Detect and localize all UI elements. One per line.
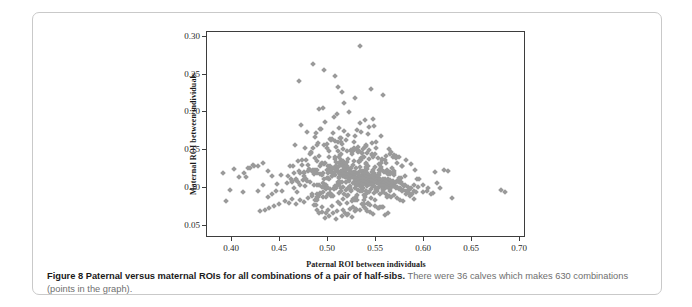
data-point bbox=[380, 93, 386, 99]
data-points-layer bbox=[207, 32, 524, 236]
data-point bbox=[408, 161, 414, 167]
data-point bbox=[220, 170, 226, 176]
data-point bbox=[307, 152, 313, 158]
figure-card: Maternal ROI between individuals Paterna… bbox=[32, 12, 662, 295]
data-point bbox=[223, 198, 229, 204]
data-point bbox=[332, 73, 338, 79]
data-point bbox=[274, 181, 280, 187]
data-point bbox=[304, 129, 310, 135]
x-tick bbox=[327, 236, 328, 241]
data-point bbox=[445, 168, 451, 174]
x-axis-title: Paternal ROI between individuals bbox=[306, 260, 425, 269]
x-tick-label: 0.40 bbox=[223, 243, 239, 253]
x-tick-label: 0.70 bbox=[511, 243, 527, 253]
data-point bbox=[343, 137, 349, 143]
data-point bbox=[449, 195, 455, 201]
data-point bbox=[342, 100, 348, 106]
data-point bbox=[255, 189, 261, 195]
x-tick bbox=[279, 236, 280, 241]
data-point bbox=[284, 180, 290, 186]
data-point bbox=[265, 194, 271, 200]
caption-lead: Figure 8 Paternal versus maternal ROIs f… bbox=[47, 271, 405, 281]
data-point bbox=[352, 95, 358, 101]
data-point bbox=[227, 187, 233, 193]
scatter-plot: Maternal ROI between individuals Paterna… bbox=[33, 13, 663, 261]
data-point bbox=[236, 174, 242, 180]
data-point bbox=[330, 130, 336, 136]
x-tick bbox=[471, 236, 472, 241]
y-tick-label: 0.05 bbox=[184, 220, 200, 230]
data-point bbox=[414, 189, 420, 195]
data-point bbox=[438, 186, 444, 192]
data-point bbox=[244, 174, 250, 180]
data-point bbox=[373, 145, 379, 151]
data-point bbox=[297, 183, 303, 189]
data-point bbox=[402, 173, 408, 179]
data-point bbox=[432, 169, 438, 175]
data-point bbox=[329, 203, 335, 209]
data-point bbox=[294, 189, 300, 195]
data-point bbox=[399, 164, 405, 170]
data-point bbox=[296, 78, 302, 84]
data-point bbox=[269, 173, 275, 179]
data-point bbox=[413, 167, 419, 173]
data-point bbox=[240, 189, 246, 195]
x-tick bbox=[423, 236, 424, 241]
data-point bbox=[340, 89, 346, 95]
data-point bbox=[368, 87, 374, 93]
x-tick-label: 0.60 bbox=[415, 243, 431, 253]
data-point bbox=[370, 116, 376, 122]
data-point bbox=[231, 166, 237, 172]
figure-caption: Figure 8 Paternal versus maternal ROIs f… bbox=[47, 270, 651, 296]
data-point bbox=[322, 119, 328, 125]
data-point bbox=[349, 214, 355, 220]
data-point bbox=[310, 62, 316, 68]
x-tick bbox=[519, 236, 520, 241]
data-point bbox=[299, 162, 305, 168]
data-point bbox=[278, 172, 284, 178]
data-point bbox=[502, 189, 508, 195]
data-point bbox=[345, 132, 351, 138]
data-point bbox=[357, 44, 363, 50]
data-point bbox=[351, 139, 357, 145]
data-point bbox=[400, 198, 406, 204]
data-point bbox=[357, 121, 363, 127]
y-tick-label: 0.30 bbox=[184, 31, 200, 41]
data-point bbox=[293, 142, 299, 148]
data-point bbox=[321, 67, 327, 73]
x-tick-label: 0.45 bbox=[271, 243, 287, 253]
x-tick bbox=[375, 236, 376, 241]
data-point bbox=[346, 109, 352, 115]
data-point bbox=[265, 168, 271, 174]
data-point bbox=[333, 216, 339, 222]
data-point bbox=[366, 131, 372, 137]
data-point bbox=[428, 192, 434, 198]
x-tick-label: 0.55 bbox=[367, 243, 383, 253]
y-axis-title: Maternal ROI between individuals bbox=[189, 73, 198, 195]
data-point bbox=[370, 211, 376, 217]
data-point bbox=[257, 208, 263, 214]
data-point bbox=[291, 163, 297, 169]
data-point bbox=[302, 146, 308, 152]
data-point bbox=[378, 133, 384, 139]
data-point bbox=[279, 189, 285, 195]
y-tick-label: 0.20 bbox=[184, 106, 200, 116]
data-point bbox=[276, 201, 282, 207]
data-point bbox=[396, 154, 402, 160]
y-tick-label: 0.10 bbox=[184, 182, 200, 192]
data-point bbox=[302, 183, 308, 189]
plot-frame: 0.050.100.150.200.250.30 0.400.450.500.5… bbox=[206, 31, 525, 237]
data-point bbox=[335, 84, 341, 90]
x-tick-label: 0.65 bbox=[463, 243, 479, 253]
x-tick bbox=[231, 236, 232, 241]
x-tick-label: 0.50 bbox=[319, 243, 335, 253]
y-tick-label: 0.15 bbox=[184, 144, 200, 154]
y-tick-label: 0.25 bbox=[184, 69, 200, 79]
data-point bbox=[298, 122, 304, 128]
data-point bbox=[260, 183, 266, 189]
